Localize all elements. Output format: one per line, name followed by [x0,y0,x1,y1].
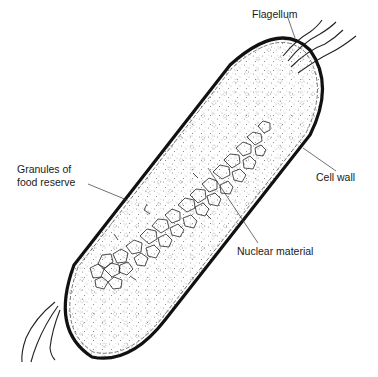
flagellum-leader [288,18,295,38]
label-nuclear-material: Nuclear material [237,245,313,258]
flagella-bottom [22,302,60,362]
label-granules-line2: food reserve [17,176,107,189]
label-granules-line1: Granules of [17,163,107,176]
label-cell-wall: Cell wall [316,171,355,184]
label-granules-of-food-reserve: Granules of food reserve [17,163,107,189]
label-flagellum: Flagellum [252,8,298,21]
cell-wall-leader [303,148,336,171]
